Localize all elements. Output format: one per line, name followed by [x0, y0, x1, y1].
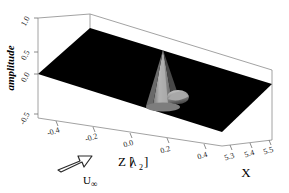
secondary-bump: [167, 90, 189, 104]
z-tick-label: 0.4: [196, 150, 208, 162]
figure-canvas: 1.0 0.5 0.0 -0.5 amplitude -0.4 -0.2 0.0…: [0, 0, 289, 193]
amplitude-axis-title: amplitude: [4, 45, 16, 90]
floor-right-edge: [222, 140, 272, 146]
z-tick-label: -0.4: [46, 125, 61, 137]
lambda-symbol: λ: [130, 154, 137, 169]
x-tick-label: 5.4: [243, 148, 255, 160]
top-left-edge: [38, 14, 90, 18]
z-tick-label: 0.2: [159, 144, 171, 156]
z-tick-label: -0.2: [84, 131, 99, 143]
amplitude-tick-label: 0.0: [19, 71, 32, 84]
amplitude-tick-label: 1.0: [19, 15, 32, 28]
flow-label: U ∞: [83, 174, 97, 189]
x-axis-title: X: [241, 165, 251, 180]
x-tick-label: 5.5: [262, 145, 274, 157]
amplitude-tick-label: 0.5: [19, 49, 32, 62]
surface-mesh: [38, 28, 272, 132]
z-axis-title: Z [ λ 2 ]: [118, 154, 148, 172]
z-axis-title-close: ]: [144, 154, 148, 169]
flow-symbol: U: [83, 174, 91, 186]
amplitude-tick-label: -0.5: [18, 111, 32, 126]
z-tick-label: 0.0: [122, 138, 134, 150]
flow-arrow-icon: [58, 156, 92, 172]
peak-base-skirt: [146, 103, 180, 112]
surface-plot: 1.0 0.5 0.0 -0.5 amplitude -0.4 -0.2 0.0…: [0, 0, 289, 193]
flow-subscript: ∞: [91, 179, 97, 189]
amplitude-ticks: 1.0 0.5 0.0 -0.5: [18, 15, 38, 126]
z-axis-title-sub: 2: [139, 163, 143, 172]
x-ticks: 5.3 5.4 5.5: [223, 140, 274, 162]
x-tick-label: 5.3: [223, 151, 235, 163]
